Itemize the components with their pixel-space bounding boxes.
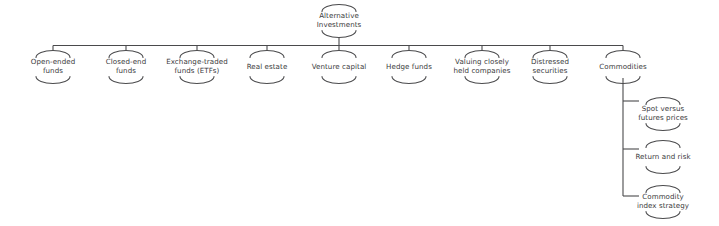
node-arc-top-real-estate bbox=[250, 51, 284, 58]
node-arc-top-open-ended-funds bbox=[36, 51, 70, 58]
tree-connector-canvas bbox=[0, 0, 719, 226]
node-arc-bottom-valuing-closely-held-companies bbox=[465, 77, 499, 84]
alternative-investments-tree-diagram: Alternative Investments Open-ended funds… bbox=[0, 0, 719, 226]
node-arc-top-distressed-securities bbox=[533, 51, 567, 58]
node-arc-bottom-closed-end-funds bbox=[109, 77, 143, 84]
node-arc-top-alternative-investments bbox=[322, 5, 356, 12]
node-arc-top-spot-versus-futures-prices bbox=[646, 98, 680, 105]
node-arc-bottom-distressed-securities bbox=[533, 77, 567, 84]
node-arc-top-commodity-index-strategy bbox=[646, 186, 680, 193]
node-arc-top-commodities bbox=[606, 51, 640, 58]
node-arc-bottom-alternative-investments bbox=[322, 31, 356, 38]
connector-lines bbox=[36, 5, 680, 219]
node-arc-top-valuing-closely-held-companies bbox=[465, 51, 499, 58]
node-arc-top-return-and-risk bbox=[646, 141, 680, 148]
node-arc-top-closed-end-funds bbox=[109, 51, 143, 58]
node-arc-bottom-venture-capital bbox=[322, 77, 356, 84]
node-arc-bottom-spot-versus-futures-prices bbox=[646, 124, 680, 131]
node-arc-top-hedge-funds bbox=[392, 51, 426, 58]
node-arc-bottom-exchange-traded-funds bbox=[180, 77, 214, 84]
node-arc-bottom-open-ended-funds bbox=[36, 77, 70, 84]
node-arc-bottom-return-and-risk bbox=[646, 167, 680, 174]
node-arc-top-venture-capital bbox=[322, 51, 356, 58]
node-arc-bottom-hedge-funds bbox=[392, 77, 426, 84]
node-arc-top-exchange-traded-funds bbox=[180, 51, 214, 58]
node-arc-bottom-real-estate bbox=[250, 77, 284, 84]
node-arc-bottom-commodity-index-strategy bbox=[646, 212, 680, 219]
